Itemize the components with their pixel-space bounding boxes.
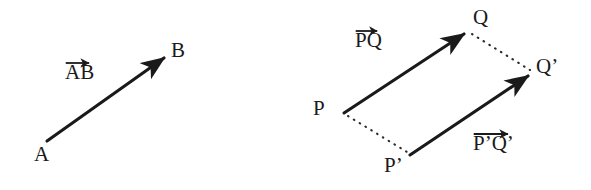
point-label-p: P: [313, 98, 325, 119]
vector-label-pprimeqprime: P’Q’: [473, 130, 514, 154]
vector-overline-arrow-icon: [473, 130, 514, 140]
point-label-p-prime: P’: [384, 155, 403, 176]
diagram-canvas: [0, 0, 591, 190]
connector-p-to-pprime: [348, 116, 407, 152]
connector-q-to-qprime: [472, 34, 530, 70]
vector-diagram: A B P Q P’ Q’ AB PQ P’Q’: [0, 0, 591, 190]
point-label-a: A: [34, 144, 49, 165]
vector-label-ab: AB: [65, 59, 94, 83]
point-label-q: Q: [473, 7, 488, 28]
point-label-q-prime: Q’: [536, 56, 558, 77]
vector-overline-arrow-icon: [65, 59, 94, 69]
point-label-b: B: [171, 40, 185, 61]
vector-label-pq: PQ: [355, 27, 382, 51]
vector-overline-arrow-icon: [355, 27, 382, 37]
